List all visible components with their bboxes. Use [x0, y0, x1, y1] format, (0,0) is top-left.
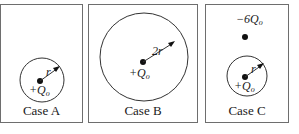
caption-case-a: Case A	[1, 103, 82, 119]
charge-label-b: +Qo	[129, 66, 150, 81]
charge-label-c: +Qo	[234, 79, 255, 94]
radius-label-c: r	[251, 62, 256, 77]
radius-label-a: r	[46, 65, 51, 80]
panel-case-a: r +Qo Case A	[0, 4, 83, 123]
panel-case-b: 2r +Qo Case B	[88, 4, 198, 123]
caption-case-c: Case C	[206, 103, 288, 119]
caption-case-b: Case B	[89, 103, 197, 119]
panel-case-c: −6Qo r +Qo Case C	[205, 4, 289, 123]
charge-label-a: +Qo	[29, 83, 50, 98]
radius-label-b: 2r	[152, 44, 163, 59]
external-charge-label-c: −6Qo	[236, 12, 263, 27]
